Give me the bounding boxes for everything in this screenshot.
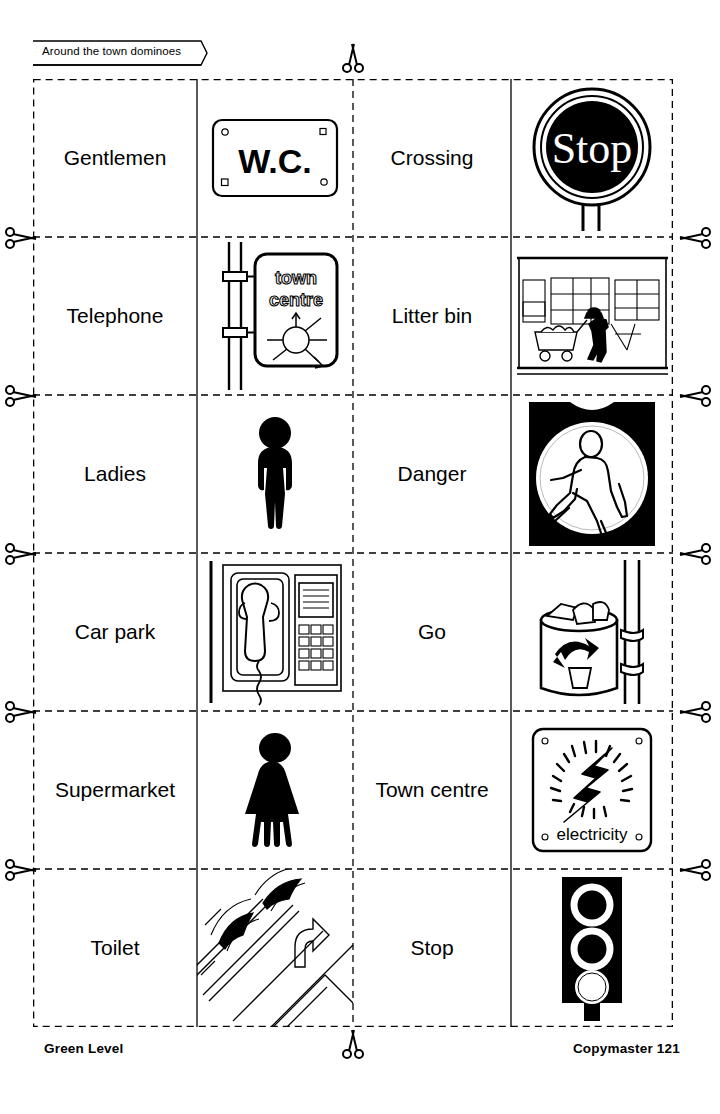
domino-label: Litter bin: [353, 237, 511, 395]
domino-label: Danger: [353, 395, 511, 553]
domino-label: Supermarket: [33, 711, 197, 869]
scissors-icon-left-5: [4, 857, 40, 887]
scissors-icon-left-2: [4, 383, 40, 413]
footer-copymaster-label: Copymaster 121: [573, 1041, 680, 1056]
domino-label: Gentlemen: [33, 79, 197, 237]
domino-label: Car park: [33, 553, 197, 711]
wc-sign-icon: W.C.: [197, 79, 353, 237]
traffic-light-icon: [511, 869, 673, 1027]
payphone-icon: [197, 553, 353, 711]
domino-label: Ladies: [33, 395, 197, 553]
electricity-sign-icon: electricity: [511, 711, 673, 869]
header-banner: Around the town dominoes: [33, 40, 208, 66]
litter-bin-icon: [511, 553, 673, 711]
wc-sign-text: W.C.: [238, 142, 312, 180]
scissors-icon-right-4: [676, 699, 712, 729]
footer-level-label: Green Level: [44, 1041, 124, 1056]
dominoes-sheet: Gentlemen W.C. Crossing Stop Telephone: [33, 79, 673, 1027]
domino-label: Toilet: [33, 869, 197, 1027]
electricity-sign-text: electricity: [557, 825, 628, 844]
scissors-icon-right-1: [676, 225, 712, 255]
stop-round-sign-icon: Stop: [511, 79, 673, 237]
woman-pictogram-icon: [197, 711, 353, 869]
town-centre-sign-icon: town centre: [197, 237, 353, 395]
supermarket-scene-icon: [511, 237, 673, 395]
scissors-icon-left-1: [4, 225, 40, 255]
town-centre-text-line1: town: [275, 268, 317, 288]
man-pictogram-icon: [197, 395, 353, 553]
worksheet-title: Around the town dominoes: [42, 45, 181, 57]
domino-label: Go: [353, 553, 511, 711]
scissors-icon-right-2: [676, 383, 712, 413]
domino-label: Telephone: [33, 237, 197, 395]
scissors-icon-left-4: [4, 699, 40, 729]
scissors-icon-bottom: [340, 1028, 366, 1064]
town-centre-text-line2: centre: [269, 290, 323, 310]
domino-label: Town centre: [353, 711, 511, 869]
stop-sign-text: Stop: [552, 124, 633, 173]
domino-label: Crossing: [353, 79, 511, 237]
car-park-markings-icon: [197, 869, 353, 1027]
pedestrian-crossing-light-icon: [511, 395, 673, 553]
scissors-icon-top: [340, 42, 366, 78]
scissors-icon-right-3: [676, 541, 712, 571]
scissors-icon-right-5: [676, 857, 712, 887]
scissors-icon-left-3: [4, 541, 40, 571]
domino-label: Stop: [353, 869, 511, 1027]
